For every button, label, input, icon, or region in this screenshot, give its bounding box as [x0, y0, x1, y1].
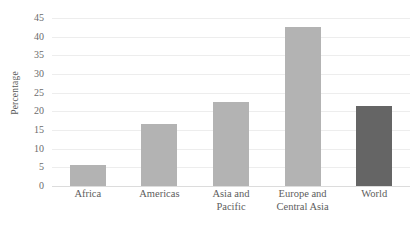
bar-slot	[338, 18, 410, 186]
x-axis-tick-label-line: World	[340, 188, 408, 201]
bar-chart-figure: Percentage 051015202530354045 AfricaAmer…	[0, 0, 414, 226]
x-axis-tick-label: World	[338, 188, 410, 224]
y-axis-tick-label: 0	[39, 181, 44, 191]
y-axis-tick-label: 35	[34, 50, 44, 60]
bar-americas[interactable]	[141, 124, 177, 186]
y-axis-tick-label: 30	[34, 69, 44, 79]
x-axis-tick-label-line: Central Asia	[269, 201, 337, 214]
y-axis-tick-label: 20	[34, 106, 44, 116]
bar-slot	[52, 18, 124, 186]
y-axis-tick-label: 5	[39, 162, 44, 172]
x-axis-tick-label: Americas	[124, 188, 196, 224]
y-axis-tick-label: 45	[34, 13, 44, 23]
bar-slot	[124, 18, 196, 186]
y-axis-title-text: Percentage	[10, 71, 20, 115]
bar-africa[interactable]	[70, 165, 106, 186]
bar-asia-and-pacific[interactable]	[213, 102, 249, 186]
bar-europe-and-central-asia[interactable]	[285, 27, 321, 186]
y-axis-tick-label: 15	[34, 125, 44, 135]
x-axis-tick-labels: AfricaAmericasAsia andPacificEurope andC…	[52, 188, 410, 224]
x-axis-tick-label-line: Pacific	[197, 201, 265, 214]
plot-area	[52, 18, 410, 186]
y-axis-tick-label: 10	[34, 144, 44, 154]
bar-slot	[267, 18, 339, 186]
x-axis-tick-label: Asia andPacific	[195, 188, 267, 224]
x-axis-tick-label: Europe andCentral Asia	[267, 188, 339, 224]
axis-baseline	[52, 186, 410, 187]
bar-slot	[195, 18, 267, 186]
x-axis-tick-label-line: Asia and	[197, 188, 265, 201]
x-axis-tick-label-line: Europe and	[269, 188, 337, 201]
x-axis-tick-label-line: Americas	[126, 188, 194, 201]
bars-layer	[52, 18, 410, 186]
x-axis-tick-label-line: Africa	[54, 188, 122, 201]
bar-world[interactable]	[356, 106, 392, 186]
x-axis-tick-label: Africa	[52, 188, 124, 224]
y-axis-tick-label: 25	[34, 88, 44, 98]
y-axis-tick-label: 40	[34, 32, 44, 42]
y-axis-tick-labels: 051015202530354045	[22, 18, 48, 186]
